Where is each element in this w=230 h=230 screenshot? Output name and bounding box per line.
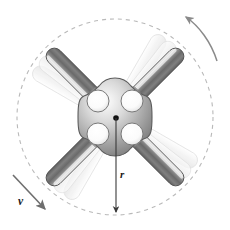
velocity-vector: v	[13, 175, 45, 209]
hub-hole-bottom-left	[87, 123, 109, 145]
velocity-label: v	[18, 195, 24, 207]
hub-hole-bottom-right	[121, 123, 143, 145]
rotating-cross-figure: r v	[0, 0, 230, 230]
figure-canvas: r v	[0, 0, 230, 230]
radius-label: r	[120, 168, 125, 180]
hub-hole-top-left	[87, 90, 109, 112]
hub-hole-top-right	[121, 90, 143, 112]
